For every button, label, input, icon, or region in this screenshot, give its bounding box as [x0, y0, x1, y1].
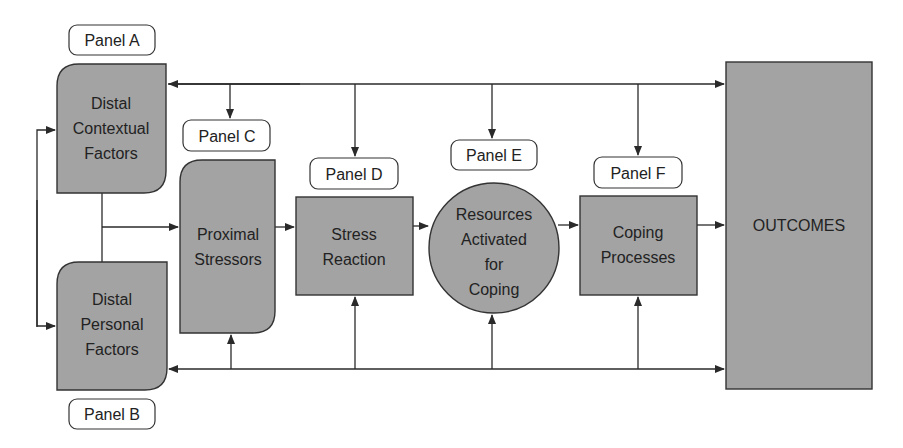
coping-processes-node — [580, 196, 697, 295]
loop-a-to-b-arrow — [37, 200, 55, 326]
panel-f-label: Panel F — [610, 165, 665, 182]
panel-d-line-2: Reaction — [322, 251, 385, 268]
outcomes-label: OUTCOMES — [753, 217, 845, 234]
loop-b-to-a-arrow — [37, 130, 55, 327]
panel-b-line-1: Distal — [92, 291, 132, 308]
panel-f-line-2: Processes — [601, 249, 676, 266]
panel-c-label: Panel C — [199, 128, 256, 145]
stress-reaction-node — [296, 197, 413, 295]
panel-e-line-1: Resources — [456, 206, 532, 223]
panel-e-line-3: for — [485, 256, 504, 273]
panel-a: Panel A Distal Contextual Factors — [57, 25, 166, 193]
panel-c-line-1: Proximal — [197, 226, 259, 243]
panel-b-line-3: Factors — [85, 341, 138, 358]
proximal-stressors-node — [180, 160, 275, 333]
panel-a-line-3: Factors — [84, 145, 137, 162]
panel-c-line-2: Stressors — [194, 251, 262, 268]
panel-e-line-4: Coping — [469, 281, 520, 298]
stress-coping-diagram: Panel A Distal Contextual Factors Distal… — [0, 0, 903, 448]
panel-a-label: Panel A — [84, 32, 139, 49]
panel-f-line-1: Coping — [613, 224, 664, 241]
panel-a-line-1: Distal — [91, 95, 131, 112]
panel-b-line-2: Personal — [80, 316, 143, 333]
panel-e: Panel E Resources Activated for Coping — [429, 140, 559, 313]
panel-d-label: Panel D — [326, 166, 383, 183]
panel-d-line-1: Stress — [331, 226, 376, 243]
outcomes: OUTCOMES — [726, 62, 872, 389]
panel-b-label: Panel B — [84, 406, 140, 423]
panel-b: Distal Personal Factors Panel B — [57, 262, 167, 429]
panel-e-label: Panel E — [466, 147, 522, 164]
panel-f: Panel F Coping Processes — [580, 157, 697, 295]
panel-e-line-2: Activated — [461, 231, 527, 248]
panel-a-line-2: Contextual — [73, 120, 150, 137]
panel-d: Panel D Stress Reaction — [296, 158, 413, 295]
panel-c: Panel C Proximal Stressors — [180, 120, 275, 333]
